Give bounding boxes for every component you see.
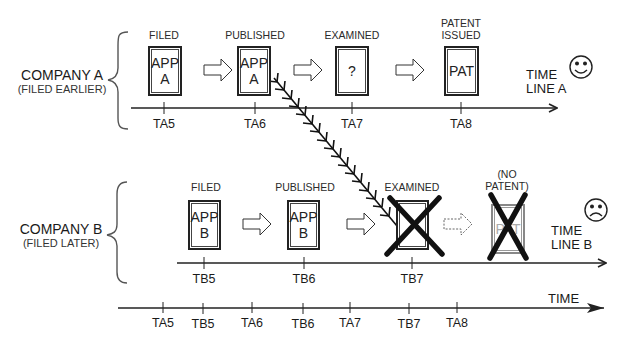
doc-text: APP xyxy=(240,55,268,71)
timeline-b-label: TIMELINE B xyxy=(551,224,592,253)
block-arrow-icon xyxy=(396,59,424,81)
tick-label-tb7: TB7 xyxy=(396,273,428,287)
brace-company-a xyxy=(108,32,128,129)
smiley-face-icon xyxy=(570,56,592,78)
diagram-graphics xyxy=(0,0,629,349)
stage-label-published-b: PUBLISHED xyxy=(270,182,340,194)
stage-label-patent-issued: PATENTISSUED xyxy=(436,18,486,41)
label-line: LINE B xyxy=(551,237,592,252)
frowning-face-icon xyxy=(585,199,607,221)
block-arrows-b xyxy=(243,213,472,235)
label-line: ISSUED xyxy=(441,29,480,41)
combined-tick-tb5: TB5 xyxy=(187,318,219,332)
document-app-b-published: APPB xyxy=(287,200,320,250)
doc-text: APP xyxy=(289,209,317,225)
block-arrow-icon xyxy=(347,213,375,235)
doc-text: PAT xyxy=(449,63,474,79)
stage-label-no-patent: (NOPATENT) xyxy=(482,169,532,192)
document-app-b-filed: APPB xyxy=(188,200,221,250)
block-arrow-icon xyxy=(204,59,232,81)
timeline-a-label: TIMELINE A xyxy=(526,68,566,97)
timeline-a xyxy=(131,102,557,114)
company-a-name: COMPANY A xyxy=(21,67,103,83)
document-app-a-published: APPA xyxy=(237,46,271,96)
label-line: PATENT xyxy=(441,17,481,29)
label-line: LINE A xyxy=(526,81,566,96)
timeline-b xyxy=(177,257,606,269)
combined-timeline-label: TIME xyxy=(548,292,579,306)
patent-timeline-diagram: COMPANY A (FILED EARLIER) COMPANY B (FIL… xyxy=(0,0,629,349)
combined-tick-tb6: TB6 xyxy=(287,318,319,332)
tick-label-ta6: TA6 xyxy=(239,118,271,132)
combined-tick-tb7: TB7 xyxy=(393,318,425,332)
brace-company-b xyxy=(107,182,127,283)
doc-text: A xyxy=(249,71,258,87)
stage-label-filed-a: FILED xyxy=(144,30,184,42)
company-a-label: COMPANY A (FILED EARLIER) xyxy=(16,68,108,95)
block-arrow-icon xyxy=(243,213,271,235)
tick-label-tb5: TB5 xyxy=(188,273,220,287)
company-b-name: COMPANY B xyxy=(20,221,103,237)
document-examined-b-crossed xyxy=(396,200,429,250)
tick-label-ta8: TA8 xyxy=(445,118,477,132)
document-patent-b-faded: PAT xyxy=(491,204,525,254)
label-line: TIME xyxy=(526,67,557,82)
stage-label-examined-b: EXAMINED xyxy=(382,182,442,194)
stage-label-examined-a: EXAMINED xyxy=(320,30,384,42)
document-patent-a: PAT xyxy=(444,46,479,96)
combined-timeline xyxy=(118,302,604,314)
label-line: TIME xyxy=(551,223,582,238)
combined-tick-ta7: TA7 xyxy=(334,317,366,331)
doc-text: APP xyxy=(190,209,218,225)
combined-tick-ta6: TA6 xyxy=(236,317,268,331)
combined-tick-ta8: TA8 xyxy=(441,317,473,331)
doc-text: B xyxy=(299,225,308,241)
doc-text: PAT xyxy=(495,221,520,237)
doc-text: APP xyxy=(151,55,179,71)
label-line: PATENT) xyxy=(485,180,528,192)
document-examined-a: ? xyxy=(335,46,369,96)
doc-text: ? xyxy=(348,63,356,79)
tick-label-ta5: TA5 xyxy=(148,118,180,132)
doc-text: B xyxy=(200,225,209,241)
stage-label-published-a: PUBLISHED xyxy=(220,30,290,42)
block-arrow-icon xyxy=(294,59,322,81)
doc-text: A xyxy=(160,71,169,87)
company-b-label: COMPANY B (FILED LATER) xyxy=(18,222,104,249)
tick-label-tb6: TB6 xyxy=(288,273,320,287)
combined-tick-ta5: TA5 xyxy=(147,317,179,331)
company-b-note: (FILED LATER) xyxy=(18,237,104,249)
label-line: (NO xyxy=(497,168,516,180)
company-a-note: (FILED EARLIER) xyxy=(16,83,108,95)
dashed-block-arrow-icon xyxy=(444,213,472,235)
stage-label-filed-b: FILED xyxy=(186,182,226,194)
tick-label-ta7: TA7 xyxy=(336,118,368,132)
document-app-a-filed: APPA xyxy=(148,46,182,96)
